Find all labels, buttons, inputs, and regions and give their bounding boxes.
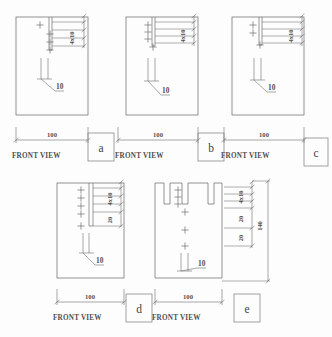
panel-e-letter: e [244, 303, 249, 315]
panel-e: 4x10 20 20 140 10 [152, 179, 270, 322]
panel-e-view-label: FRONT VIEW [152, 314, 201, 322]
panel-b-outline [126, 17, 198, 115]
panel-a-vertical-dim: 4x10 [68, 32, 75, 45]
panel-c-hole-note: 10 [268, 83, 276, 92]
drawing-canvas: 4x10 10 100 FRONT VIEW a [0, 0, 332, 337]
panel-e-overall-height-value: 140 [256, 221, 263, 231]
panel-c-view-label: FRONT VIEW [221, 152, 270, 160]
panel-a-hole-note: 10 [56, 82, 64, 91]
panel-b-view-label: FRONT VIEW [115, 152, 164, 160]
panel-e-centermarks [174, 186, 188, 249]
panel-e-outline-with-slots [155, 183, 222, 278]
panel-e-hole-note: 10 [198, 259, 206, 268]
panel-d-hole-note: 10 [96, 256, 104, 265]
panel-c-centermarks [249, 21, 263, 48]
panel-a-centermarks [36, 21, 53, 53]
panel-e-vertical-dim-2: 20 [237, 216, 244, 222]
panel-a-view-label: FRONT VIEW [12, 152, 61, 160]
panel-d-view-label: FRONT VIEW [53, 314, 102, 322]
panel-a-letter: a [98, 142, 103, 154]
panel-b-letter: b [208, 142, 214, 154]
panel-d-vertical-dim-2: 20 [106, 217, 113, 223]
panel-c-dim-leaders [262, 16, 302, 46]
panel-e-width-value: 100 [183, 293, 194, 300]
panel-b-width-value: 100 [153, 131, 164, 138]
panel-c-letter: c [313, 147, 318, 159]
panel-d: 4x10 20 10 100 FRONT VIEW d [53, 180, 152, 322]
panel-b-hole-note: 10 [162, 86, 170, 95]
panel-b: 4x10 10 100 FRONT VIEW b [115, 14, 224, 161]
panel-a-width-value: 100 [47, 131, 58, 138]
panel-d-vertical-dim-1: 4x10 [106, 193, 113, 206]
panel-c: 4x10 10 100 FRONT VIEW c [221, 14, 328, 166]
panel-d-letter: d [136, 303, 142, 315]
panel-c-width-value: 100 [259, 131, 270, 138]
panel-d-width-value: 100 [85, 293, 96, 300]
drawing-sheet: 4x10 10 100 FRONT VIEW a [0, 0, 332, 337]
panel-e-vertical-dim-1: 4x10 [237, 191, 244, 204]
panel-d-outline [57, 183, 124, 278]
panel-b-dim-leaders [155, 16, 194, 46]
panel-e-vertical-dim-3: 20 [237, 235, 244, 241]
panel-a: 4x10 10 100 FRONT VIEW a [12, 14, 114, 161]
panel-b-vertical-dim: 4x10 [179, 30, 186, 43]
panel-c-vertical-dim: 4x10 [287, 30, 294, 43]
panel-d-centermarks [77, 186, 84, 229]
